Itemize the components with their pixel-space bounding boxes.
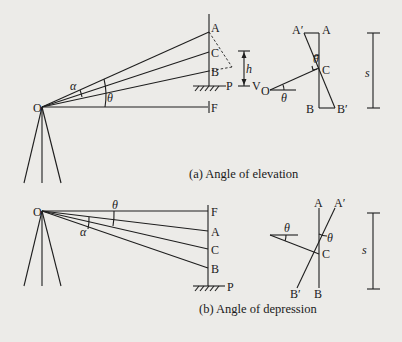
inset-b-theta-2: θ bbox=[327, 231, 333, 245]
label-O: O bbox=[33, 101, 42, 115]
inset-b-label-s: s bbox=[362, 243, 367, 257]
inset-a-label-A-prime: A′ bbox=[292, 23, 304, 37]
inset-b-label-B-prime: B′ bbox=[290, 287, 301, 301]
label-B-b: B bbox=[211, 262, 219, 276]
sight-line-OC bbox=[42, 52, 209, 107]
diagram-figure: O A C B P V F h α θ (a) Angle of elevati… bbox=[0, 0, 402, 342]
inset-a: A′ A C O B B′ θ θ s bbox=[261, 23, 380, 116]
label-A-b: A bbox=[211, 225, 220, 239]
inset-b-label-B: B bbox=[314, 287, 322, 301]
inset-b-label-A-prime: A′ bbox=[334, 196, 346, 210]
ground-hatch-a bbox=[193, 86, 226, 91]
sight-line-OB bbox=[42, 71, 209, 107]
label-A: A bbox=[211, 21, 220, 35]
panel-a-elevation: O A C B P V F h α θ (a) Angle of elevati… bbox=[24, 14, 380, 183]
sight-line-OA bbox=[42, 32, 209, 107]
inset-b: A A′ C B′ B θ θ s bbox=[270, 196, 380, 301]
label-C-b: C bbox=[211, 243, 219, 257]
inset-a-label-A: A bbox=[322, 23, 331, 37]
inset-a-label-B: B bbox=[306, 102, 314, 116]
caption-a: (a) Angle of elevation bbox=[189, 167, 299, 181]
caption-b: (b) Angle of depression bbox=[199, 302, 317, 316]
label-h: h bbox=[246, 62, 252, 76]
label-C: C bbox=[211, 46, 219, 60]
tripod-b bbox=[24, 211, 61, 286]
label-theta-a: θ bbox=[107, 91, 113, 105]
inset-a-label-O: O bbox=[261, 84, 270, 98]
label-theta-b: θ bbox=[112, 198, 118, 212]
label-B: B bbox=[211, 65, 219, 79]
label-P-b: P bbox=[227, 280, 234, 294]
label-alpha-a: α bbox=[70, 79, 77, 93]
inset-b-label-C: C bbox=[322, 247, 330, 261]
panel-b-depression: O F A C B P θ α (b) Angle of depression … bbox=[24, 196, 380, 316]
diagram-canvas: O A C B P V F h α θ (a) Angle of elevati… bbox=[0, 0, 402, 342]
label-F-b: F bbox=[211, 205, 218, 219]
inset-b-theta-1: θ bbox=[284, 221, 290, 235]
inset-a-label-s: s bbox=[365, 66, 370, 80]
inset-a-theta-2: θ bbox=[313, 52, 319, 66]
inset-a-label-B-prime: B′ bbox=[337, 102, 348, 116]
tripod-a bbox=[24, 107, 61, 183]
inset-a-theta-1: θ bbox=[281, 91, 287, 105]
sight-line-OC-b bbox=[42, 211, 208, 249]
label-F: F bbox=[211, 101, 218, 115]
sight-line-OB-b bbox=[42, 211, 208, 268]
sight-line-OA-b bbox=[42, 211, 208, 231]
ground-hatch-b bbox=[193, 286, 225, 291]
inset-a-label-C: C bbox=[322, 63, 330, 77]
label-V: V bbox=[252, 79, 261, 93]
inset-b-label-A: A bbox=[314, 196, 323, 210]
label-P: P bbox=[226, 79, 233, 93]
label-O-b: O bbox=[33, 205, 42, 219]
label-alpha-b: α bbox=[80, 225, 87, 239]
